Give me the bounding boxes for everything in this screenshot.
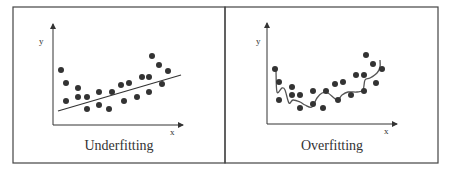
data-point [134,94,140,100]
data-point [58,67,64,73]
underfitting-x-label: x [170,127,175,137]
data-point [310,101,316,107]
data-point [379,66,385,72]
overfitting-fit-curve [276,60,380,107]
data-point [121,98,127,104]
data-point [75,85,81,91]
data-point [323,88,329,94]
data-point [146,74,152,80]
data-point [139,74,145,80]
overfitting-caption: Overfitting [226,138,438,154]
data-point [156,62,162,68]
data-point [106,106,112,112]
linear-fit-line [58,75,181,111]
data-point [373,80,379,86]
data-point [75,94,81,100]
data-point [276,97,282,103]
data-point [297,105,303,111]
underfitting-fit-line [58,75,181,111]
data-point [363,52,369,58]
data-point [165,68,171,74]
data-point [320,105,326,111]
data-point [332,81,338,87]
data-point [63,80,69,86]
data-point [353,72,359,78]
underfitting-caption: Underfitting [13,138,225,154]
data-point [149,53,155,59]
data-point [126,80,132,86]
overfit-curve [276,60,380,107]
data-point [370,61,376,67]
data-point [63,98,69,104]
data-point [272,66,278,72]
data-point [84,106,90,112]
data-point [159,81,165,87]
data-point [146,89,152,95]
data-point [297,92,303,98]
overfitting-y-label: y [256,36,261,46]
data-point [109,89,115,95]
data-point [289,84,295,90]
data-point [361,72,367,78]
data-point [348,92,354,98]
data-point [276,79,282,85]
overfitting-x-label: x [384,126,389,136]
data-point [361,88,367,94]
data-point [289,92,295,98]
data-point [335,97,341,103]
data-point [340,79,346,85]
data-point [96,102,102,108]
data-point [84,94,90,100]
data-point [310,88,316,94]
data-point [118,82,124,88]
underfitting-y-label: y [39,36,44,46]
data-point [96,89,102,95]
